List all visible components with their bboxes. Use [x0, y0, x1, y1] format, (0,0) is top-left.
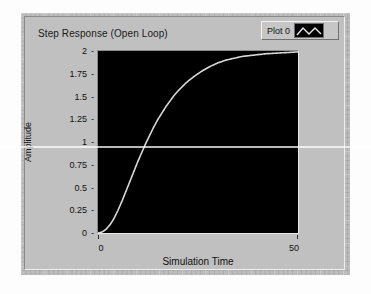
y-axis-tick-label: 1: [82, 137, 87, 147]
x-axis-tick-mark: [98, 235, 99, 239]
plot-legend[interactable]: Plot 0: [261, 21, 339, 40]
plot-area[interactable]: [97, 50, 299, 234]
y-axis-tick-label: 1.75: [69, 69, 87, 79]
y-axis[interactable]: Amplitude 0-0.25-0.5-0.75-1-1.25-1.5-1.7…: [25, 50, 96, 234]
y-axis-tick-mark: -: [91, 46, 94, 56]
y-axis-tick-label: 0.5: [74, 183, 87, 193]
y-axis-tick-label: 1.25: [69, 114, 87, 124]
graph-title: Step Response (Open Loop): [38, 28, 168, 39]
x-axis-label: Simulation Time: [97, 256, 299, 267]
y-axis-tick-label: 0.75: [69, 160, 87, 170]
zigzag-line-icon-svg: [295, 25, 323, 38]
x-axis[interactable]: 050: [97, 235, 299, 257]
plot-canvas: [98, 51, 298, 233]
waveform-graph-control[interactable]: Step Response (Open Loop) Plot 0 Amplitu…: [24, 16, 345, 270]
y-axis-tick-mark: -: [91, 114, 94, 124]
plot-legend-label: Plot 0: [267, 26, 290, 36]
y-axis-tick-label: 2: [82, 46, 87, 56]
y-axis-tick-mark: -: [91, 92, 94, 102]
y-axis-tick-label: 0.25: [69, 205, 87, 215]
plot-trace-plot0: [98, 52, 298, 233]
x-axis-tick-mark: [297, 235, 298, 239]
y-axis-tick-mark: -: [91, 228, 94, 238]
y-axis-tick-mark: -: [91, 205, 94, 215]
x-axis-tick-label: 50: [289, 243, 299, 253]
y-axis-tick-mark: -: [91, 137, 94, 147]
screenshot-root: Step Response (Open Loop) Plot 0 Amplitu…: [0, 0, 371, 294]
y-axis-tick-mark: -: [91, 69, 94, 79]
y-axis-label: Amplitude: [23, 122, 33, 162]
y-axis-tick-mark: -: [91, 183, 94, 193]
zigzag-line-icon[interactable]: [294, 23, 324, 38]
y-axis-tick-label: 1.5: [74, 92, 87, 102]
x-axis-tick-label: 0: [98, 243, 103, 253]
y-axis-tick-label: 0: [82, 228, 87, 238]
y-axis-tick-mark: -: [91, 160, 94, 170]
